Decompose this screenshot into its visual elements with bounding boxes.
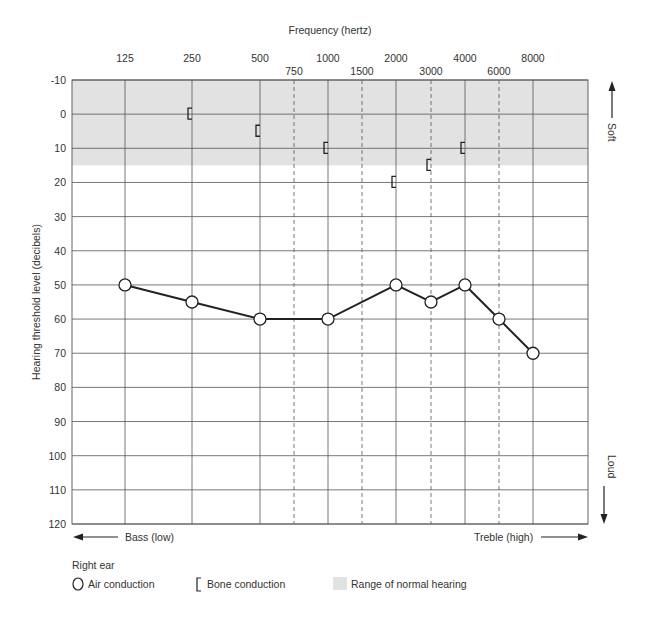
x-tick-500: 500 [251, 52, 269, 64]
y-tick-120: 120 [48, 518, 66, 530]
x-axis-title: Frequency (hertz) [289, 24, 372, 36]
y-tick-20: 20 [54, 176, 66, 188]
y-tick-90: 90 [54, 416, 66, 428]
y-tick-80: 80 [54, 381, 66, 393]
y-tick-30: 30 [54, 211, 66, 223]
circle-marker-icon [73, 578, 83, 590]
x-tick-1000: 1000 [316, 52, 340, 64]
y-tick-0: 0 [60, 108, 66, 120]
x-tick-2000: 2000 [384, 52, 408, 64]
air-point-marker [119, 279, 131, 291]
svg-text:Bone conduction: Bone conduction [207, 578, 285, 590]
legend-normal-range: Range of normal hearing [333, 577, 467, 590]
y-tick-labels: -100102030405060708090100110120 [48, 74, 66, 530]
air-point-marker [186, 296, 198, 308]
y-tick-50: 50 [54, 279, 66, 291]
x-tick-750: 750 [285, 65, 303, 77]
normal-hearing-band [72, 80, 588, 165]
air-point-marker [527, 347, 539, 359]
y-tick-60: 60 [54, 313, 66, 325]
legend-bone-conduction: Bone conduction [197, 578, 285, 591]
legend-air-conduction: Air conduction [73, 578, 155, 590]
air-point-marker [493, 313, 505, 325]
y-tick-10: 10 [54, 142, 66, 154]
y-tick-110: 110 [49, 484, 66, 496]
y-axis-title: Hearing threshold level (decibels) [30, 224, 42, 380]
treble-label: Treble (high) [474, 531, 533, 543]
legend-title: Right ear [72, 559, 115, 571]
y-tick-70: 70 [54, 347, 66, 359]
air-point-marker [459, 279, 471, 291]
loud-label: Loud [606, 455, 618, 479]
air-point-marker [390, 279, 402, 291]
bass-arrow-icon [73, 534, 118, 541]
svg-text:Air conduction: Air conduction [88, 578, 155, 590]
bracket-marker-icon [197, 578, 201, 591]
x-tick-1500: 1500 [350, 65, 374, 77]
x-tick-125: 125 [116, 52, 134, 64]
x-tick-labels: 1252505001000200040008000750150030006000 [116, 52, 545, 77]
y-tick-100: 100 [48, 450, 66, 462]
gray-swatch-icon [333, 577, 347, 590]
air-point-marker [322, 313, 334, 325]
svg-text:Range of normal hearing: Range of normal hearing [351, 578, 467, 590]
treble-arrow-icon [541, 534, 588, 541]
y-tick--10: -10 [51, 74, 66, 86]
bone-point-marker [392, 176, 396, 187]
air-point-marker [425, 296, 437, 308]
loud-arrow-icon [601, 486, 608, 524]
bass-label: Bass (low) [125, 531, 174, 543]
soft-label: Soft [606, 123, 618, 142]
air-point-marker [254, 313, 266, 325]
soft-arrow-icon [609, 81, 616, 118]
x-tick-3000: 3000 [419, 65, 443, 77]
audiogram-chart: 1252505001000200040008000750150030006000… [0, 0, 646, 621]
x-tick-4000: 4000 [453, 52, 477, 64]
x-tick-8000: 8000 [521, 52, 545, 64]
x-tick-250: 250 [183, 52, 201, 64]
x-tick-6000: 6000 [487, 65, 511, 77]
y-tick-40: 40 [54, 245, 66, 257]
